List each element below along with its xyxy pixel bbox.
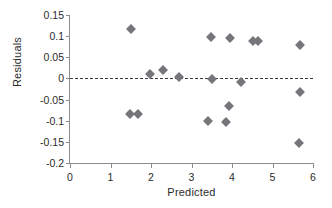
x-axis-tick-mark xyxy=(232,163,233,168)
data-point-marker xyxy=(221,117,231,127)
data-point-marker xyxy=(174,72,184,82)
y-axis-tick-label: 0 xyxy=(58,72,64,84)
data-point-marker xyxy=(126,24,136,34)
x-axis-tick-mark xyxy=(273,163,274,168)
y-axis-tick-mark xyxy=(66,142,70,143)
y-axis-tick-label: 0.15 xyxy=(44,9,64,21)
x-axis-title: Predicted xyxy=(70,186,313,198)
data-point-marker xyxy=(158,65,168,75)
x-axis-tick-mark xyxy=(192,163,193,168)
data-point-marker xyxy=(133,109,143,119)
y-axis-tick-label: -0.15 xyxy=(40,136,64,148)
x-axis-tick-mark xyxy=(111,163,112,168)
y-axis-tick-mark xyxy=(66,36,70,37)
x-axis-tick-label: 3 xyxy=(189,171,195,183)
y-axis-tick-mark xyxy=(66,121,70,122)
x-axis-tick-mark xyxy=(313,163,314,168)
x-axis-tick-label: 4 xyxy=(229,171,235,183)
data-point-marker xyxy=(294,138,304,148)
x-axis-tick-mark xyxy=(151,163,152,168)
data-point-marker xyxy=(145,69,155,79)
x-axis-tick-label: 0 xyxy=(67,171,73,183)
residuals-scatter-chart: Residuals Predicted 0.150.10.050-0.05-0.… xyxy=(0,0,332,208)
y-axis-tick-label: 0.1 xyxy=(49,30,64,42)
data-point-marker xyxy=(224,101,234,111)
y-axis-tick-label: -0.05 xyxy=(40,94,64,106)
plot-area: 0.150.10.050-0.05-0.1-0.15-0.20123456 xyxy=(70,15,313,163)
x-axis-tick-label: 2 xyxy=(148,171,154,183)
data-point-marker xyxy=(225,33,235,43)
data-point-marker xyxy=(295,87,305,97)
data-point-marker xyxy=(295,40,305,50)
x-axis-tick-label: 1 xyxy=(108,171,114,183)
x-axis-tick-label: 6 xyxy=(310,171,316,183)
x-axis-tick-label: 5 xyxy=(270,171,276,183)
y-axis-title: Residuals xyxy=(11,17,23,107)
y-axis-tick-mark xyxy=(66,78,70,79)
y-axis-tick-mark xyxy=(66,15,70,16)
y-axis-tick-mark xyxy=(66,57,70,58)
x-axis-tick-mark xyxy=(70,163,71,168)
y-axis-tick-label: -0.2 xyxy=(46,157,64,169)
y-axis-tick-label: -0.1 xyxy=(46,115,64,127)
zero-reference-line xyxy=(70,78,313,79)
data-point-marker xyxy=(207,74,217,84)
data-point-marker xyxy=(206,32,216,42)
y-axis-tick-label: 0.05 xyxy=(44,51,64,63)
data-point-marker xyxy=(203,116,213,126)
y-axis-tick-mark xyxy=(66,100,70,101)
